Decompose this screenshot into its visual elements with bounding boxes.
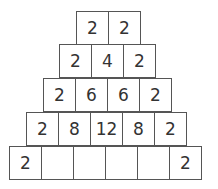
pyramid-cell: 8 (58, 112, 91, 146)
pyramid-cell: 8 (122, 112, 155, 146)
pyramid-cell: 2 (139, 78, 172, 112)
pyramid-row-3: 2 6 6 2 (43, 78, 172, 112)
pyramid-cell: 2 (108, 11, 141, 45)
pyramid-cell: 2 (9, 146, 42, 180)
pyramid-cell: 6 (107, 78, 140, 112)
pyramid-cell: 2 (123, 44, 156, 78)
pyramid-cell: 4 (91, 44, 124, 78)
pyramid-cell: 2 (154, 112, 187, 146)
pyramid-cell: 2 (169, 146, 202, 180)
pyramid-cell-empty (73, 146, 106, 180)
pyramid-cell: 2 (26, 112, 59, 146)
pyramid-cell-empty (105, 146, 138, 180)
pyramid-cell: 12 (90, 112, 123, 146)
pyramid-cell: 2 (43, 78, 76, 112)
pyramid-row-5: 2 2 (9, 146, 202, 180)
number-pyramid: 2 2 2 4 2 2 6 6 2 2 8 12 8 2 2 2 (0, 0, 218, 189)
pyramid-row-2: 2 4 2 (59, 44, 156, 78)
pyramid-cell: 2 (59, 44, 92, 78)
pyramid-cell: 2 (76, 11, 109, 45)
pyramid-row-1: 2 2 (76, 11, 141, 45)
pyramid-cell-empty (41, 146, 74, 180)
pyramid-row-4: 2 8 12 8 2 (26, 112, 187, 146)
pyramid-cell-empty (137, 146, 170, 180)
pyramid-cell: 6 (75, 78, 108, 112)
